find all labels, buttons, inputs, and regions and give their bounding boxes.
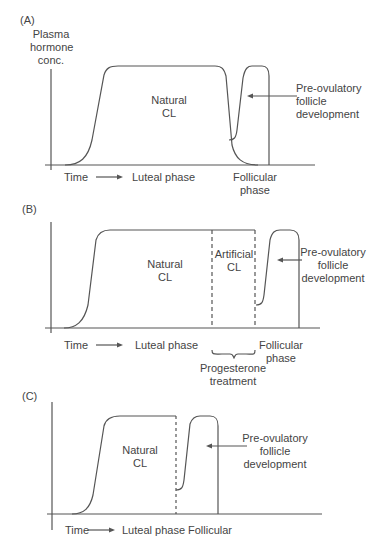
label-line: development — [298, 272, 368, 285]
panel-b-time-label: Time — [64, 339, 88, 352]
label-line: Progesterone — [200, 362, 266, 375]
panel-c-luteal-label: Luteal phase — [122, 524, 185, 537]
label-line: follicle — [296, 95, 361, 108]
label-line: development — [296, 108, 361, 121]
label-line: Follicular — [256, 339, 306, 352]
panel-b-follicle-curve — [256, 230, 299, 328]
label-line: Artificial — [213, 248, 255, 261]
progesterone-brace — [212, 350, 255, 358]
panel-b-natural-cl-label: Natural CL — [144, 258, 186, 284]
label-line: Follicular — [230, 171, 280, 184]
panel-b-artificial-cl-label: Artificial CL — [213, 248, 255, 274]
panel-a-natural-cl-label: Natural CL — [148, 94, 190, 120]
label-line: Pre-ovulatory — [240, 432, 310, 445]
label-line: follicle — [240, 445, 310, 458]
label-line: CL — [144, 271, 186, 284]
label-line: treatment — [200, 375, 266, 388]
panel-a-luteal-label: Luteal phase — [132, 171, 195, 184]
panel-a-label: (A) — [20, 14, 35, 27]
y-axis-label-line: hormone — [30, 41, 72, 54]
panel-a-follicular-label: Follicular phase — [230, 171, 280, 197]
panel-a-follicle-label: Pre-ovulatory follicle development — [296, 82, 361, 121]
label-line: CL — [119, 457, 161, 470]
panel-c-time-label: Time — [65, 524, 89, 537]
label-line: CL — [213, 261, 255, 274]
panel-b-luteal-label: Luteal phase — [135, 339, 198, 352]
y-axis-label-line: conc. — [30, 54, 72, 67]
panel-b-label: (B) — [22, 203, 37, 216]
label-line: follicle — [298, 259, 368, 272]
panel-c-follicular-label: Follicular — [188, 524, 232, 537]
panel-c-follicle-curve — [176, 416, 218, 514]
label-line: development — [240, 458, 310, 471]
label-line: Natural — [144, 258, 186, 271]
progesterone-treatment-label: Progesterone treatment — [200, 362, 266, 388]
y-axis-label-line: Plasma — [30, 28, 72, 41]
y-axis-label: Plasma hormone conc. — [30, 28, 72, 67]
label-line: Natural — [119, 444, 161, 457]
label-line: Pre-ovulatory — [296, 82, 361, 95]
panel-b-follicle-label: Pre-ovulatory follicle development — [298, 246, 368, 285]
label-line: Natural — [148, 94, 190, 107]
panel-a-follicle-curve — [229, 66, 269, 165]
panel-a-time-label: Time — [64, 171, 88, 184]
panel-c-natural-cl-label: Natural CL — [119, 444, 161, 470]
panel-c-follicle-label: Pre-ovulatory follicle development — [240, 432, 310, 471]
label-line: phase — [230, 184, 280, 197]
label-line: Pre-ovulatory — [298, 246, 368, 259]
panel-c-label: (C) — [22, 390, 37, 403]
label-line: CL — [148, 107, 190, 120]
